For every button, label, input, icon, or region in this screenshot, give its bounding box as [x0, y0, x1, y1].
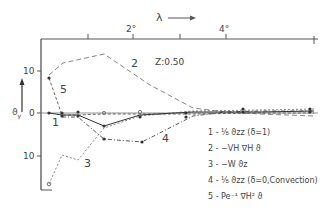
legend-item-2: 2 - −VH ∇H ϑ — [208, 141, 318, 157]
curve-label-1: 1 — [52, 116, 59, 129]
x-axis-label: λ — [156, 11, 163, 24]
series-5-line — [49, 78, 314, 115]
curve-label-2: 2 — [131, 57, 138, 70]
legend: 1 - ⅛ ϑzz (δ=1) 2 - −VH ∇H ϑ 3 - −W ϑz 4… — [208, 125, 318, 205]
curve-label-5: 5 — [60, 83, 67, 96]
y-tick-10-top: 10 — [23, 66, 34, 76]
x-tick-2: 2° — [126, 24, 136, 34]
legend-item-4: 4 - ⅛ ϑzz (δ=0,Convection) — [208, 173, 318, 189]
legend-item-5: 5 - Pe⁻¹ ∇H² ϑ — [208, 189, 318, 205]
legend-item-3: 3 - −W ϑz — [208, 157, 318, 173]
curve-label-4: 4 — [162, 132, 169, 145]
y-tick-10-bottom: 10 — [23, 151, 34, 161]
y-tick-0: 0 — [29, 108, 35, 118]
annotation-z: Z:0.50 — [155, 57, 184, 67]
x-tick-4: 4° — [219, 24, 229, 34]
y-axis-label: ϑy — [12, 107, 21, 119]
legend-item-1: 1 - ⅛ ϑzz (δ=1) — [208, 125, 318, 141]
curve-label-3: 3 — [84, 157, 91, 170]
